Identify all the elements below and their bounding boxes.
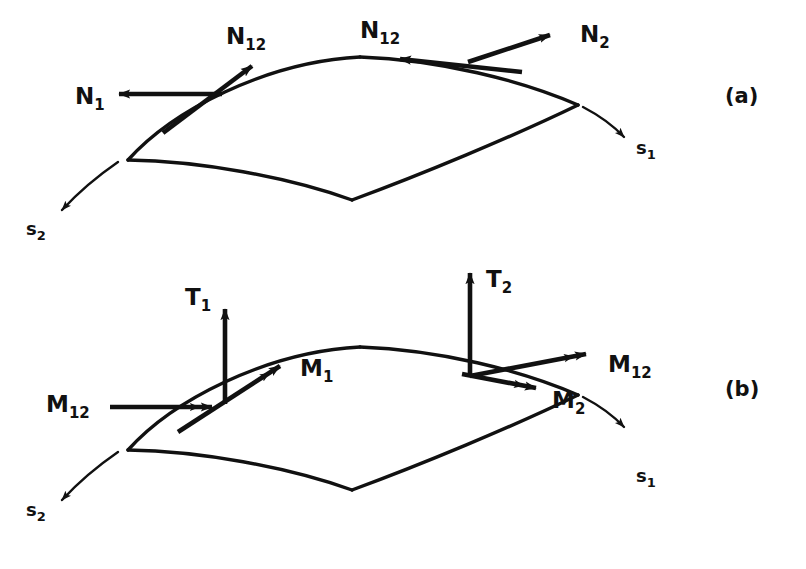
shell-edge-bottom-right-a (352, 105, 578, 200)
shell-edge-top-left-b (128, 347, 360, 450)
vector-M12-left-label-b: M12 (46, 391, 90, 422)
vector-T2-label-b: T2 (486, 266, 512, 297)
shell-element-a (128, 57, 578, 200)
axis-s1-label-b: s1 (636, 465, 656, 490)
vector-T1-label-b: T1 (185, 284, 211, 315)
vector-M2-b: M2 (462, 374, 585, 418)
axis-s2-a: s2 (26, 162, 118, 243)
axis-s1-shaft-a (583, 107, 624, 137)
axis-s2-label-a: s2 (26, 218, 46, 243)
panel-label-a: (a) (725, 84, 758, 108)
vector-T2-b: T2 (470, 266, 512, 377)
axis-s2-label-b: s2 (26, 499, 46, 524)
axis-s1-a: s1 (583, 107, 656, 162)
axis-s2-shaft-a (62, 162, 118, 210)
vector-N1-a: N1 (75, 83, 222, 114)
panel-a: N1 N12 N12 N2 s1 (26, 17, 758, 243)
vector-N12-right-a: N12 (360, 17, 522, 72)
axis-s2-b: s2 (26, 452, 118, 524)
panel-b: M12 T1 M1 T2 M12 (26, 266, 759, 524)
vector-N2-label-a: N2 (580, 21, 610, 52)
axis-s2-shaft-b (62, 452, 118, 500)
vector-M1-label-b: M1 (300, 355, 333, 386)
shell-edge-bottom-left-b (128, 450, 352, 490)
axis-s1-b: s1 (583, 397, 656, 490)
vector-N2-shaft-a (468, 35, 550, 62)
vector-M2-label-b: M2 (552, 387, 585, 418)
figure-root: N1 N12 N12 N2 s1 (0, 0, 806, 569)
vector-N12-left-label-a: N12 (226, 23, 266, 54)
shell-resultants-figure: N1 N12 N12 N2 s1 (0, 0, 806, 569)
axis-s1-label-a: s1 (636, 137, 656, 162)
vector-M12-left-b: M12 (46, 391, 212, 422)
panel-label-b: (b) (725, 377, 759, 401)
vector-N12-left-shaft-a (163, 66, 252, 133)
vector-N12-right-label-a: N12 (360, 17, 400, 48)
vector-M12-right-label-b: M12 (608, 351, 652, 382)
shell-edge-bottom-left-a (128, 160, 352, 200)
axis-s1-shaft-b (583, 397, 624, 427)
vector-N1-label-a: N1 (75, 83, 105, 114)
vector-N2-a: N2 (468, 21, 610, 62)
shell-edge-bottom-right-b (352, 395, 578, 490)
